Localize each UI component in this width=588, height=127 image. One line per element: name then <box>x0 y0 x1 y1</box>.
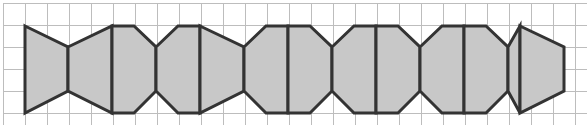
tessellation-figure <box>0 0 588 127</box>
tiles-layer <box>25 26 564 113</box>
tessellation-canvas <box>0 0 588 127</box>
